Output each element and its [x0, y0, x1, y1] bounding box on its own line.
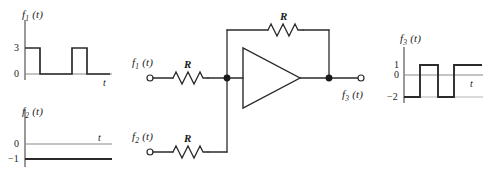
input1-label-arg: (t): [142, 56, 153, 68]
resistor-input2-label: R: [184, 132, 191, 144]
plot-f3-title-sub: 3: [403, 38, 407, 47]
plot-f2-svg: [0, 95, 130, 184]
f1-ytick-3: 3: [14, 42, 19, 53]
plot-f2-title: f2(t): [22, 105, 43, 120]
plot-f3-title: f3(t): [400, 32, 421, 47]
plot-f2-title-arg: (t): [32, 105, 43, 117]
f2-ytick-0: 0: [14, 138, 19, 149]
input1-label: f1(t): [132, 56, 153, 71]
plot-f1-svg: [0, 0, 130, 95]
input2-terminal: [147, 149, 153, 155]
output-label-arg: (t): [352, 88, 363, 100]
output-label-sub: 3: [345, 94, 349, 103]
output-terminal: [358, 75, 364, 81]
resistor-feedback: [268, 24, 303, 36]
f3-xlabel: t: [470, 78, 473, 89]
f3-ytick-neg2: −2: [387, 91, 398, 102]
plot-f3: f3(t) 1 0 −2 t: [378, 25, 490, 115]
output-label: f3(t): [342, 88, 363, 103]
plot-f2: f2(t) 0 −1 t: [0, 95, 130, 184]
plot-f1-title-arg: (t): [32, 8, 43, 20]
resistor-input2: [173, 146, 208, 158]
input2-label-sub: 2: [135, 136, 139, 145]
resistor-feedback-label: R: [280, 10, 287, 22]
summing-node-dot: [224, 75, 231, 82]
plot-f2-title-sub: 2: [25, 111, 29, 120]
plot-f1-title-sub: 1: [25, 14, 29, 23]
output-node-dot: [326, 75, 333, 82]
input2-label: f2(t): [132, 130, 153, 145]
input1-terminal: [147, 75, 153, 81]
plot-f1-title: f1(t): [22, 8, 43, 23]
f1-waveform: [25, 48, 110, 74]
amplifier-triangle: [243, 48, 300, 108]
circuit-diagram: f1(t) f2(t) f3(t) R R R: [130, 0, 380, 184]
plot-f1: f1(t) 3 0 t: [0, 0, 130, 95]
resistor-input1-label: R: [184, 58, 191, 70]
figure-root: f1(t) 3 0 t f2(t) 0 −1 t: [0, 0, 490, 184]
resistor-input1: [173, 72, 208, 84]
f2-ytick-neg1: −1: [8, 153, 19, 164]
input2-label-arg: (t): [142, 130, 153, 142]
f3-ytick-0: 0: [394, 69, 399, 80]
plot-f3-title-arg: (t): [410, 32, 421, 44]
f2-xlabel: t: [98, 132, 101, 143]
input1-label-sub: 1: [135, 62, 139, 71]
f1-xlabel: t: [103, 77, 106, 88]
f1-ytick-0: 0: [14, 68, 19, 79]
